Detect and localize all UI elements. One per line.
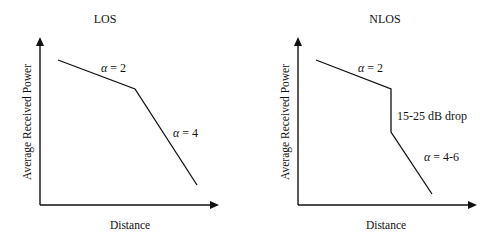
los-alpha-4-label: α = 4 — [173, 126, 198, 140]
nlos-alpha-4-6-label: α = 4-6 — [424, 150, 459, 164]
nlos-drop-label: 15-25 dB drop — [397, 109, 467, 123]
los-y-axis-arrow-icon — [36, 37, 44, 46]
los-x-axis-arrow-icon — [210, 201, 219, 209]
nlos-x-axis-arrow-icon — [468, 201, 477, 209]
nlos-x-axis-label: Distance — [366, 219, 406, 231]
los-x-axis-label: Distance — [110, 219, 150, 231]
nlos-path-loss-curve — [316, 60, 432, 194]
nlos-y-axis-arrow-icon — [294, 37, 302, 46]
los-path-loss-curve — [58, 60, 197, 185]
los-title: LOS — [94, 12, 117, 26]
nlos-title: NLOS — [369, 12, 400, 26]
nlos-panel: NLOS α = 2 15-25 dB drop α = 4-6 Distanc… — [279, 12, 477, 231]
nlos-y-axis-label: Average Received Power — [279, 64, 292, 180]
los-y-axis-label: Average Received Power — [21, 64, 34, 180]
path-loss-diagram: LOS α = 2 α = 4 Distance Average Receive… — [0, 0, 494, 242]
los-alpha-2-label: α = 2 — [101, 61, 126, 75]
los-panel: LOS α = 2 α = 4 Distance Average Receive… — [21, 12, 219, 231]
nlos-alpha-2-label: α = 2 — [358, 61, 383, 75]
